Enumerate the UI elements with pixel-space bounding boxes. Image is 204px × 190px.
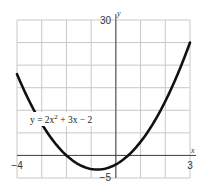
y-max-tick-label: 30	[100, 15, 112, 26]
x-min-tick-label: −4	[11, 160, 23, 171]
y-axis-label: y	[116, 9, 121, 18]
x-axis-label: x	[190, 146, 195, 155]
equation-label: y = 2x2 + 3x − 2	[30, 113, 93, 125]
parabola-curve	[17, 43, 190, 170]
quadratic-chart: 30 −5 −4 3 y x y = 2x2 + 3x − 2	[0, 0, 204, 190]
y-min-tick-label: −5	[100, 172, 112, 183]
x-max-tick-label: 3	[187, 160, 193, 171]
grid	[17, 20, 190, 178]
